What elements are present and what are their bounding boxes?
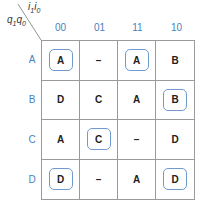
circled-value: A (49, 49, 73, 71)
cell-a-00: A (42, 41, 80, 81)
cell-d-00: D (42, 160, 80, 200)
column-variables-label: i1i0 (28, 1, 40, 14)
value: D (49, 89, 73, 111)
column-header-00: 00 (41, 22, 80, 33)
value: – (87, 49, 111, 71)
value: D (163, 128, 187, 150)
row-variables-label: q1q0 (7, 14, 26, 27)
row-header-d: D (26, 174, 38, 185)
circled-value: D (49, 168, 73, 190)
column-header-11: 11 (118, 22, 157, 33)
cell-a-10: B (156, 41, 194, 81)
value: – (87, 168, 111, 190)
row-header-a: A (26, 54, 38, 65)
value: A (125, 89, 149, 111)
value: A (125, 168, 149, 190)
cell-b-01: C (80, 81, 118, 121)
cell-b-00: D (42, 81, 80, 121)
circled-value: D (163, 168, 187, 190)
circled-value: C (87, 128, 111, 150)
cell-c-10: D (156, 120, 194, 160)
cell-d-10: D (156, 160, 194, 200)
value: B (163, 49, 187, 71)
cell-c-11: – (118, 120, 156, 160)
column-header-01: 01 (80, 22, 119, 33)
circled-value: B (163, 89, 187, 111)
cell-a-01: – (80, 41, 118, 81)
row-header-c: C (26, 134, 38, 145)
state-table-grid: A – A B D C A B A C – D D – A D (41, 40, 195, 200)
cell-d-01: – (80, 160, 118, 200)
column-header-10: 10 (157, 22, 196, 33)
cell-d-11: A (118, 160, 156, 200)
value: A (49, 128, 73, 150)
circled-value: A (125, 49, 149, 71)
row-header-b: B (26, 94, 38, 105)
cell-a-11: A (118, 41, 156, 81)
cell-b-11: A (118, 81, 156, 121)
cell-c-01: C (80, 120, 118, 160)
cell-c-00: A (42, 120, 80, 160)
value: – (125, 128, 149, 150)
value: C (87, 89, 111, 111)
cell-b-10: B (156, 81, 194, 121)
